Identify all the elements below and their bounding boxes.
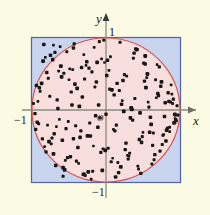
sample-point <box>110 160 113 163</box>
sample-point <box>93 46 96 49</box>
sample-point <box>43 145 46 148</box>
sample-point <box>164 139 168 143</box>
sample-point <box>171 93 174 96</box>
sample-point <box>143 54 147 58</box>
sample-point <box>116 161 119 164</box>
sample-point <box>82 172 86 176</box>
sample-point <box>46 124 49 127</box>
sample-point <box>52 44 55 47</box>
sample-point <box>95 80 98 83</box>
sample-point <box>93 86 96 89</box>
sample-point <box>78 136 82 140</box>
sample-point <box>163 101 167 105</box>
monte-carlo-figure: y x 1 −1 1 −1 O <box>0 0 210 215</box>
sample-point <box>92 145 95 148</box>
x-axis-label: x <box>193 114 199 127</box>
sample-point <box>130 107 134 111</box>
sample-point <box>41 59 45 63</box>
sample-point <box>160 80 164 84</box>
sample-point <box>90 178 93 181</box>
sample-point <box>68 78 71 81</box>
sample-point <box>72 137 75 140</box>
sample-point <box>66 156 69 159</box>
sample-point <box>59 64 63 68</box>
sample-point <box>41 137 44 140</box>
sample-point <box>44 56 47 59</box>
sample-point <box>74 124 77 127</box>
sample-point <box>70 103 74 107</box>
sample-point <box>64 127 67 130</box>
sample-point <box>103 61 106 64</box>
sample-point <box>107 147 110 150</box>
sample-point <box>83 78 86 81</box>
sample-point <box>144 62 147 65</box>
sample-point <box>121 79 125 83</box>
sample-point <box>138 111 142 115</box>
sample-point <box>153 158 156 161</box>
sample-point <box>176 104 179 107</box>
sample-point <box>99 151 102 154</box>
y-axis-label: y <box>96 12 102 25</box>
sample-point <box>124 141 127 144</box>
sample-point <box>69 155 72 158</box>
x-tick-label-positive-one: 1 <box>172 114 178 126</box>
sample-point <box>121 99 124 102</box>
sample-point <box>128 155 131 158</box>
sample-point <box>75 87 79 91</box>
sample-point <box>143 80 146 83</box>
sample-point <box>52 132 55 135</box>
sample-point <box>49 53 53 57</box>
sample-point <box>128 152 131 155</box>
sample-point <box>153 153 156 156</box>
sample-point <box>170 83 173 86</box>
sample-point <box>124 148 127 151</box>
sample-point <box>112 128 115 131</box>
sample-point <box>168 130 171 133</box>
sample-point <box>149 115 153 119</box>
sample-point <box>127 157 130 160</box>
sample-point <box>158 149 161 152</box>
sample-point <box>85 60 89 64</box>
sample-point <box>96 125 100 129</box>
sample-point <box>35 120 39 124</box>
sample-point <box>144 86 148 90</box>
sample-point <box>161 134 164 137</box>
sample-point <box>80 66 83 69</box>
sample-point <box>59 45 62 48</box>
sample-point <box>106 59 110 63</box>
sample-point <box>48 95 51 98</box>
sample-point <box>70 90 73 93</box>
sample-point <box>111 157 114 160</box>
y-tick-label-negative-one: −1 <box>92 186 105 198</box>
sample-point <box>119 41 122 44</box>
sample-point <box>105 74 109 78</box>
sample-point <box>102 39 105 42</box>
sample-point <box>137 168 140 171</box>
sample-point <box>155 96 158 99</box>
sample-point <box>72 46 75 49</box>
sample-point <box>119 165 123 169</box>
sample-point <box>108 69 111 72</box>
sample-point <box>64 159 67 162</box>
sample-point <box>141 135 144 138</box>
sample-point <box>135 49 138 52</box>
sample-point <box>73 82 77 86</box>
sample-point <box>90 70 93 73</box>
sample-point <box>110 88 114 92</box>
sample-point <box>115 124 118 127</box>
sample-point <box>150 163 153 166</box>
sample-point <box>114 175 118 179</box>
sample-point <box>163 115 167 119</box>
sample-point <box>152 132 155 135</box>
sample-point <box>60 75 64 79</box>
sample-point <box>156 92 160 96</box>
sample-point <box>123 73 126 76</box>
sample-point <box>159 85 162 88</box>
sample-point <box>39 90 42 93</box>
sample-point <box>151 144 154 147</box>
sample-point <box>76 146 80 150</box>
plot-canvas <box>0 0 210 215</box>
x-tick-label-negative-one: −1 <box>14 114 27 126</box>
sample-point <box>132 51 135 54</box>
sample-point <box>45 71 48 74</box>
